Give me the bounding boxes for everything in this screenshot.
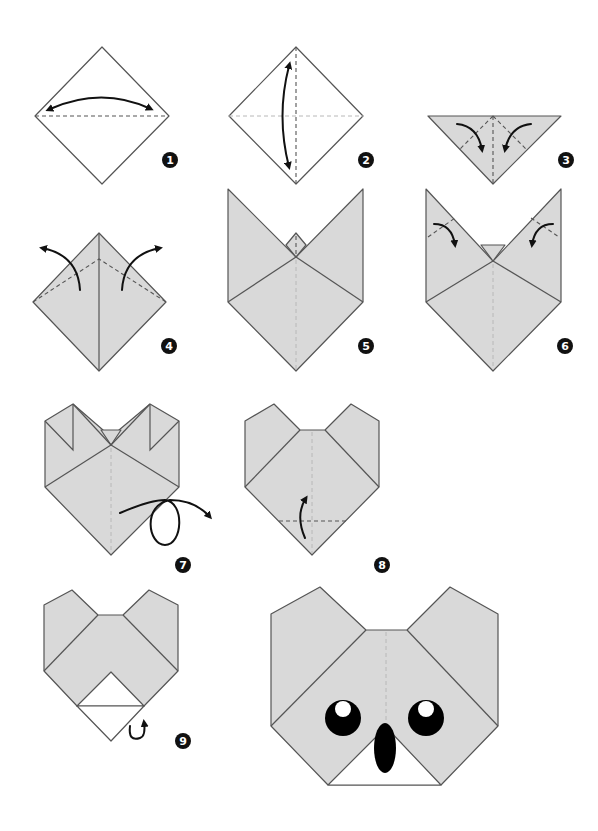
step-badge: 7	[175, 557, 191, 573]
step-7-diagram: 7	[45, 404, 210, 573]
step-badge: 3	[558, 152, 574, 168]
svg-text:9: 9	[179, 735, 187, 748]
svg-text:6: 6	[561, 340, 569, 353]
step-5-diagram: 5	[228, 189, 374, 371]
final-koala-face	[271, 587, 498, 785]
paper-shape	[45, 404, 179, 555]
step-badge: 4	[161, 338, 177, 354]
step-3-diagram: 3	[428, 116, 574, 184]
koala-nose	[374, 723, 396, 773]
step-badge: 8	[374, 557, 390, 573]
svg-text:5: 5	[362, 340, 370, 353]
paper-triangle	[428, 116, 561, 184]
step-badge: 2	[358, 152, 374, 168]
step-badge: 9	[175, 733, 191, 749]
paper-shape	[228, 189, 363, 371]
step-badge: 6	[557, 338, 573, 354]
bottom-tip	[77, 706, 144, 741]
svg-text:3: 3	[562, 154, 570, 167]
svg-text:2: 2	[362, 154, 370, 167]
step-4-diagram: 4	[33, 233, 177, 371]
svg-text:7: 7	[179, 559, 187, 572]
step-badge: 5	[358, 338, 374, 354]
left-eye	[325, 700, 361, 736]
step-badge: 1	[162, 152, 178, 168]
svg-text:1: 1	[166, 154, 174, 167]
right-eye	[408, 700, 444, 736]
svg-text:8: 8	[378, 559, 386, 572]
fold-behind-arrow-icon	[130, 722, 145, 739]
step-2-diagram: 2	[229, 47, 374, 184]
step-9-diagram: 9	[44, 590, 191, 749]
step-6-diagram: 6	[426, 189, 573, 371]
step-1-diagram: 1	[35, 47, 178, 184]
origami-koala-diagram: 1 2 3 4	[0, 0, 598, 831]
step-8-diagram: 8	[245, 404, 390, 573]
svg-text:4: 4	[165, 340, 173, 353]
